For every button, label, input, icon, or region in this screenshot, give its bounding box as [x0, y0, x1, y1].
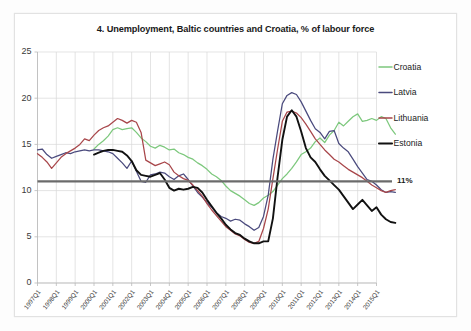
x-tick-label: 2005Q1 [173, 288, 194, 311]
legend-label-estonia: Estonia [394, 138, 423, 148]
x-tick-label: 1998Q1 [41, 288, 62, 311]
x-tick-label: 2014Q1 [342, 288, 363, 311]
x-tick-label: 2015Q1 [361, 288, 382, 311]
x-tick-label: 2000Q1 [79, 288, 100, 311]
x-tick-label: 2013Q1 [324, 288, 345, 311]
chart-legend: CroatiaLatviaLithuaniaEstonia [379, 62, 429, 149]
x-tick-label: 2001Q1 [98, 288, 119, 311]
x-tick-label: 2008Q1 [229, 288, 250, 311]
reference-line-label: 11% [397, 176, 413, 185]
y-tick-labels: 0510152025 [21, 46, 37, 287]
x-tick-label: 1997Q1 [22, 288, 43, 311]
data-series [38, 93, 396, 244]
legend-label-lithuania: Lithuania [394, 113, 429, 123]
x-tick-label: 2011Q1 [286, 288, 306, 311]
x-tick-label: 2010Q1 [267, 288, 288, 311]
x-tick-label: 2012Q1 [305, 288, 326, 311]
figure-root: 4. Unemployment, Baltic countries and Cr… [0, 0, 471, 331]
x-gridlines [38, 52, 377, 283]
x-tick-label: 1999Q1 [60, 288, 81, 311]
y-tick-label: 0 [26, 277, 31, 287]
y-tick-label: 25 [21, 46, 31, 56]
y-tick-label: 15 [21, 139, 31, 149]
x-tick-labels: 1997Q11998Q11999Q12000Q12001Q12002Q12003… [22, 283, 382, 311]
x-tick-label: 2007Q1 [211, 288, 232, 311]
y-tick-label: 10 [21, 185, 31, 195]
x-tick-label: 2004Q1 [154, 288, 175, 311]
x-tick-label: 2009Q1 [248, 288, 269, 311]
legend-label-latvia: Latvia [394, 87, 417, 97]
y-tick-label: 5 [26, 231, 31, 241]
legend-label-croatia: Croatia [394, 62, 422, 72]
x-tick-label: 2002Q1 [116, 288, 137, 311]
y-tick-label: 20 [21, 93, 31, 103]
chart-plot-area: 0510152025 1997Q11998Q11999Q12000Q12001Q… [0, 0, 471, 331]
x-tick-label: 2006Q1 [192, 288, 213, 311]
x-tick-label: 2003Q1 [135, 288, 156, 311]
series-line-latvia [38, 93, 396, 231]
